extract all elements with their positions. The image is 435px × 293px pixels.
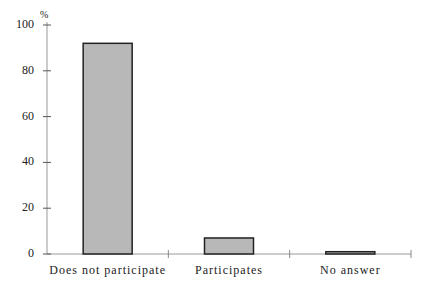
- y-tick-label: 20: [4, 200, 34, 215]
- chart-canvas: [0, 0, 435, 293]
- x-category-label: Does not participate: [38, 263, 178, 278]
- y-tick-label: 0: [4, 246, 34, 261]
- y-tick-label: 100: [4, 17, 34, 32]
- bar-chart: % 020406080100 Does not participateParti…: [0, 0, 435, 293]
- y-tick-label: 60: [4, 109, 34, 124]
- x-category-label: Participates: [159, 263, 299, 278]
- x-category-label: No answer: [280, 263, 420, 278]
- y-axis-unit-label: %: [40, 9, 48, 20]
- bar-no-answer: [326, 252, 375, 254]
- y-tick-label: 40: [4, 154, 34, 169]
- bar-participates: [205, 238, 254, 254]
- bar-does-not-participate: [83, 43, 132, 254]
- y-tick-label: 80: [4, 63, 34, 78]
